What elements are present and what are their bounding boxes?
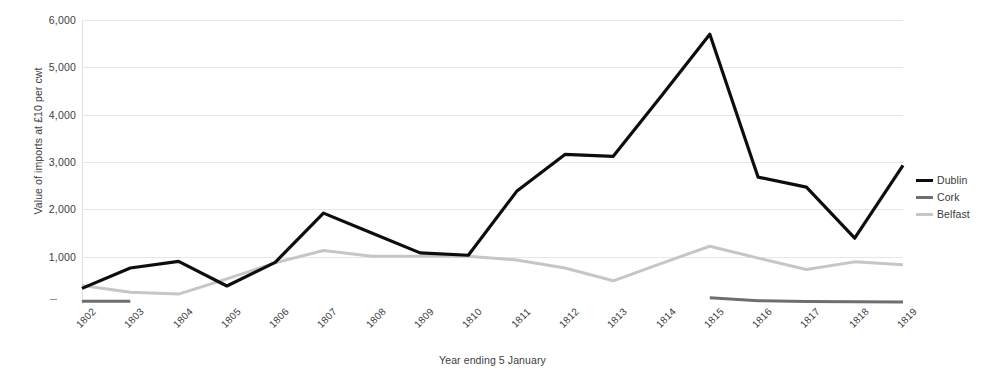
x-axis-tick-labels: 1802180318041805180618071808180918101811…: [82, 306, 903, 352]
x-axis-tick-label: 1818: [847, 306, 871, 330]
x-axis-tick-label: 1803: [122, 306, 146, 330]
x-axis-tick-label: 1805: [219, 306, 243, 330]
x-axis-title: Year ending 5 January: [82, 354, 903, 366]
x-axis-tick-label: 1815: [702, 306, 726, 330]
x-axis-tick-label: 1816: [750, 306, 774, 330]
series-line-belfast: [82, 246, 903, 294]
line-chart-figure: 6,0005,0004,0003,0002,0001,000 Value of …: [0, 0, 994, 389]
y-axis-title: Value of imports at £10 per cwt: [32, 21, 44, 261]
x-axis-tick-label: 1808: [364, 306, 388, 330]
chart-legend: DublinCorkBelfast: [916, 172, 994, 223]
legend-swatch-belfast: [916, 213, 933, 216]
series-lines: [82, 20, 903, 304]
x-axis-tick-label: 1812: [557, 306, 581, 330]
x-axis-tick-label: 1814: [653, 306, 677, 330]
legend-label: Dublin: [937, 174, 967, 186]
x-axis-tick-label: 1806: [267, 306, 291, 330]
legend-swatch-dublin: [916, 179, 933, 182]
x-axis-tick-label: 1811: [509, 306, 533, 330]
x-axis-tick-label: 1804: [170, 306, 194, 330]
x-axis-tick-label: 1813: [605, 306, 629, 330]
x-axis-tick-label: 1809: [412, 306, 436, 330]
legend-label: Cork: [937, 191, 960, 203]
legend-label: Belfast: [937, 208, 970, 220]
x-axis-tick-label: 1819: [895, 306, 919, 330]
legend-item-cork[interactable]: Cork: [916, 189, 994, 205]
x-axis-tick-label: 1802: [74, 306, 98, 330]
x-axis-tick-label: 1817: [798, 306, 822, 330]
legend-item-dublin[interactable]: Dublin: [916, 172, 994, 188]
series-line-dublin: [82, 34, 903, 288]
y-axis-zero-tick: [50, 299, 57, 300]
series-line-cork: [710, 298, 903, 302]
legend-swatch-cork: [916, 196, 933, 199]
x-axis-tick-label: 1810: [460, 306, 484, 330]
x-axis-tick-label: 1807: [315, 306, 339, 330]
plot-area: [82, 20, 903, 304]
legend-item-belfast[interactable]: Belfast: [916, 206, 994, 222]
